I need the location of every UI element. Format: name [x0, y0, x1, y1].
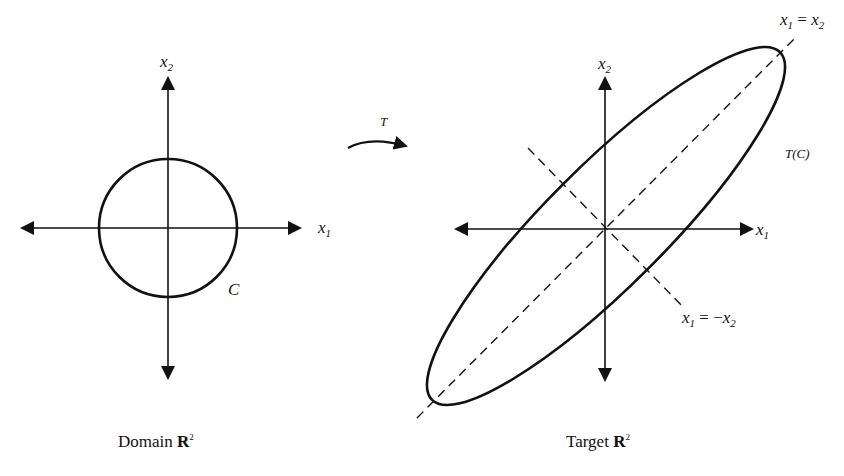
- diag-x1-eq-neg-x2: [528, 148, 684, 308]
- curved-arrow-icon: [348, 141, 406, 148]
- circle-label: C: [228, 280, 239, 300]
- domain-caption: Domain R2: [118, 432, 194, 452]
- domain-panel: [22, 78, 300, 378]
- diag-label-x1-eq-x2: x1 = x2: [780, 10, 824, 31]
- diag-label-x1-eq-neg-x2: x1 = −x2: [682, 308, 736, 329]
- domain-y-axis-label: x2: [160, 52, 173, 73]
- domain-x-axis-label: x1: [318, 218, 331, 239]
- transform-label: T: [380, 114, 387, 130]
- target-caption: Target R2: [566, 432, 630, 452]
- transform-arrow: [348, 141, 406, 148]
- target-y-axis-label: x2: [598, 54, 611, 75]
- figure-canvas: [0, 0, 844, 476]
- ellipse-label: T(C): [785, 146, 810, 162]
- target-x-axis-label: x1: [756, 220, 769, 241]
- diag-x1-eq-x2: [417, 36, 797, 418]
